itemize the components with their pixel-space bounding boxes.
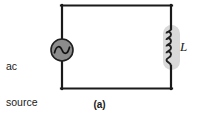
inductor-label: L xyxy=(180,40,187,54)
circuit-wires xyxy=(61,5,172,89)
ac-inductor-circuit-figure: ac source L (a) xyxy=(0,0,199,120)
ac-source-label-line1: ac xyxy=(6,60,38,72)
ac-source-icon xyxy=(51,39,73,61)
figure-caption: (a) xyxy=(0,99,199,111)
